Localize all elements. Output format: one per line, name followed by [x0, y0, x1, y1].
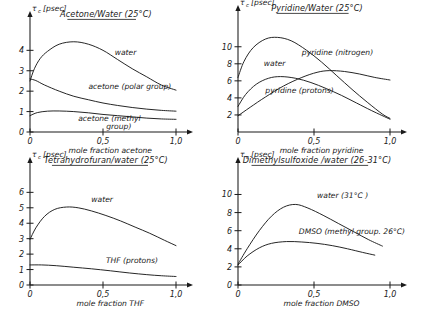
curve-dmso-methyl-group-26C: [238, 241, 375, 265]
curve-label-water: water: [264, 59, 287, 68]
y-tick-label: 0: [19, 128, 24, 137]
chart-panel-pyridine-water: 24681000,51,0τc[psec]Pyridine/Water (25°…: [212, 2, 424, 162]
curve-thf-protons: [30, 265, 176, 277]
y-tick-label: 8: [227, 209, 232, 218]
x-tick-label: 0,5: [97, 290, 110, 299]
y-tick-label: 3: [19, 67, 24, 76]
figure-four-panel-correlation-times: 0123400,51,0τc[psec]Acetone/Water (25°C)…: [0, 0, 424, 319]
y-tick-label: 4: [227, 94, 232, 103]
x-axis-arrow: [187, 129, 193, 134]
x-tick-label: 0,5: [308, 137, 321, 146]
chart-panel-acetone-water: 0123400,51,0τc[psec]Acetone/Water (25°C)…: [6, 2, 212, 162]
x-tick-label: 0,5: [97, 137, 110, 146]
svg-text:τ: τ: [240, 0, 245, 7]
y-tick-label: 1: [19, 266, 24, 275]
curve-label-acetone-polar-group: acetone (polar group): [88, 82, 171, 91]
y-tick-label: 5: [19, 204, 24, 213]
curve-water: [30, 207, 176, 246]
x-axis-label: mole fraction THF: [77, 299, 145, 308]
curve-label-pyridine-nitrogen: pyridine (nitrogen): [301, 48, 373, 57]
y-tick-label: 2: [19, 250, 24, 259]
curve-label-water: water: [115, 48, 138, 57]
x-axis-label: mole fraction DMSO: [284, 299, 360, 308]
svg-text:τ: τ: [32, 150, 37, 159]
curve-label-pyridine-protons: pyridine (protons): [264, 86, 333, 95]
panel-title: Tetrahydrofuran/water (25°C): [44, 155, 168, 165]
y-tick-label: 4: [227, 245, 232, 254]
x-tick-label: 0,5: [308, 290, 321, 299]
x-axis-label: mole fraction acetone: [69, 146, 153, 155]
x-axis-arrow: [187, 282, 193, 287]
x-axis-arrow: [401, 282, 407, 287]
x-tick-label: 0: [235, 290, 240, 299]
y-tick-label: 3: [19, 235, 24, 244]
svg-text:c: c: [38, 154, 41, 160]
svg-text:c: c: [38, 8, 41, 14]
curve-label-dmso-methyl-group-26C: DMSO (methyl group. 26°C): [299, 227, 405, 236]
x-tick-label: 1,0: [170, 290, 183, 299]
x-axis-label: mole fraction pyridine: [280, 146, 364, 155]
y-tick-label: 2: [19, 87, 24, 96]
y-tick-label: 0: [227, 281, 232, 290]
x-axis-arrow: [401, 129, 407, 134]
y-axis-unit-label: τc[psec]: [240, 0, 275, 8]
y-tick-label: 4: [19, 46, 24, 55]
curve-label-water: water: [91, 195, 114, 204]
y-tick-label: 10: [222, 43, 232, 52]
x-tick-label: 0: [27, 290, 32, 299]
curve-pyridine-protons: [238, 77, 390, 120]
svg-text:c: c: [246, 2, 249, 8]
chart-panel-dmso-water: 024681000,51,0τc[psec]Dimethylsulfoxide …: [212, 160, 424, 319]
x-tick-label: 1,0: [384, 290, 397, 299]
y-tick-label: 2: [227, 111, 232, 120]
x-tick-label: 0: [27, 137, 32, 146]
curve-label-water-31C: water (31°C ): [317, 191, 368, 200]
y-tick-label: 8: [227, 60, 232, 69]
y-tick-label: 10: [222, 190, 232, 199]
panel-title: Pyridine/Water (25°C): [271, 3, 362, 13]
y-tick-label: 2: [227, 263, 232, 272]
panel-title: Dimethylsulfoxide /water (26-31°C): [243, 155, 392, 165]
curve-label-acetone-methyl-group: acetone (methylgroup): [78, 114, 141, 131]
y-tick-label: 6: [19, 188, 24, 197]
y-tick-label: 1: [19, 108, 24, 117]
y-tick-label: 6: [227, 227, 232, 236]
curve-label-thf-protons: THF (protons): [106, 256, 158, 265]
x-tick-label: 1,0: [384, 137, 397, 146]
panel-title: Acetone/Water (25°C): [59, 9, 152, 19]
y-tick-label: 4: [19, 219, 24, 228]
chart-panel-thf-water: 012345600,51,0τc[psec]Tetrahydrofuran/wa…: [6, 160, 212, 319]
x-tick-label: 1,0: [170, 137, 183, 146]
y-tick-label: 6: [227, 77, 232, 86]
svg-text:τ: τ: [32, 4, 37, 13]
y-tick-label: 0: [19, 281, 24, 290]
x-tick-label: 0: [235, 137, 240, 146]
